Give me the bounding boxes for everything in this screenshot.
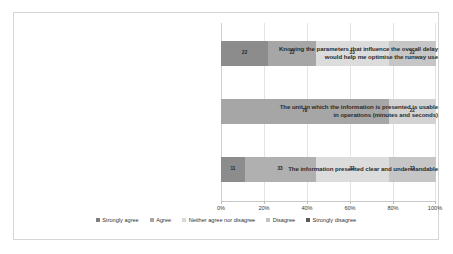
x-tick-label: 40% xyxy=(301,205,312,211)
category-label-line: Knowing the parameters that influence th… xyxy=(238,45,438,53)
legend-item-disagree[interactable]: Disagree xyxy=(266,217,295,223)
x-tick-label: 60% xyxy=(344,205,355,211)
legend-swatch-icon xyxy=(96,218,100,222)
category-label-line: The information presented clear and unde… xyxy=(238,165,438,173)
category-label-1: Knowing the parameters that influence th… xyxy=(238,45,438,62)
x-tick-label: 0% xyxy=(217,205,225,211)
x-tick-mark xyxy=(393,201,394,204)
legend-label: Agree xyxy=(156,217,171,223)
category-label-2: The unit in which the information is pre… xyxy=(238,103,438,120)
legend-swatch-icon xyxy=(266,218,270,222)
category-label-3: The information presented clear and unde… xyxy=(238,165,438,173)
category-label-line: The unit in which the information is pre… xyxy=(238,103,438,111)
legend-item-strongly-disagree[interactable]: Strongly disagree xyxy=(306,217,356,223)
legend-swatch-icon xyxy=(150,218,154,222)
legend-swatch-icon xyxy=(182,218,186,222)
x-tick-mark xyxy=(221,201,222,204)
bar-value-label: 11 xyxy=(230,167,235,172)
legend-label: Neither agree nor disagree xyxy=(189,217,256,223)
x-tick-mark xyxy=(435,201,436,204)
legend-item-strongly-agree[interactable]: Strongly agree xyxy=(96,217,139,223)
chart-legend: Strongly agree Agree Neither agree nor d… xyxy=(14,217,438,223)
legend-label: Strongly disagree xyxy=(313,217,357,223)
x-tick-label: 20% xyxy=(258,205,269,211)
chart-frame: 22 22 33 22 78 22 11 xyxy=(13,12,439,240)
legend-item-agree[interactable]: Agree xyxy=(150,217,171,223)
x-tick-mark xyxy=(350,201,351,204)
x-tick-label: 80% xyxy=(387,205,398,211)
x-tick-label: 100% xyxy=(428,205,442,211)
category-label-line: would help me optimise the runway use xyxy=(238,53,438,61)
legend-item-neither-agree-nor-disagree[interactable]: Neither agree nor disagree xyxy=(182,217,255,223)
x-tick-mark xyxy=(307,201,308,204)
x-axis-line xyxy=(221,201,436,202)
legend-label: Disagree xyxy=(273,217,295,223)
category-label-line: in operations (minutes and seconds) xyxy=(238,111,438,119)
legend-label: Strongly agree xyxy=(102,217,138,223)
legend-swatch-icon xyxy=(306,218,310,222)
x-tick-mark xyxy=(264,201,265,204)
